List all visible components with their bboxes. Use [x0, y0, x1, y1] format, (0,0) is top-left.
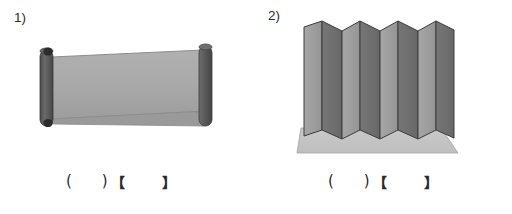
answer-paren-open-2[interactable]: ( [328, 172, 334, 190]
answer-bracket-open-1[interactable]: 【 [111, 171, 125, 191]
scroll-roller-left [40, 48, 53, 126]
figure-panel-2: 2) [256, 0, 512, 214]
answer-bracket-open-2[interactable]: 【 [373, 171, 387, 191]
scroll-roller-knob-top [43, 47, 52, 55]
answer-blanks-row-2: ( ) 【 】 [328, 168, 438, 194]
accordion-pleats [304, 21, 454, 139]
answer-paren-open-1[interactable]: ( [66, 172, 72, 190]
answer-paren-close-1[interactable]: ) [102, 172, 108, 190]
answer-paren-close-2[interactable]: ) [364, 172, 370, 190]
figure-panel-1: 1) [0, 0, 256, 214]
scroll-roller-knob-bottom [43, 119, 52, 127]
answer-bracket-close-2[interactable]: 】 [424, 171, 438, 191]
answer-blanks-row-1: ( ) 【 】 [66, 168, 176, 194]
answer-bracket-close-1[interactable]: 】 [162, 171, 176, 191]
scroll-sheet [52, 50, 209, 126]
